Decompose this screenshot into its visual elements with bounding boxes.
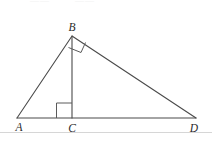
vertex-label-a: A	[14, 121, 23, 133]
right-angle-marker-c	[57, 103, 73, 118]
figure-canvas: A B C D	[0, 0, 212, 143]
segment-bd	[72, 36, 196, 118]
vertex-label-d: D	[189, 122, 199, 134]
vertex-label-c: C	[68, 122, 76, 134]
right-angle-marker-b	[69, 43, 86, 53]
vertex-label-b: B	[68, 21, 75, 33]
segment-ab	[17, 36, 72, 118]
geometry-figure: —— —— A B C D	[0, 0, 212, 143]
